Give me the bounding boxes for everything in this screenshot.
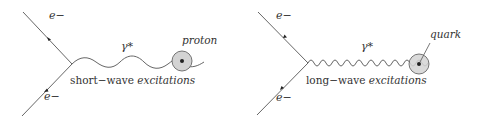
caption-long-wave: long−wave excitations <box>306 74 427 86</box>
electron-label-bottom: e− <box>276 91 292 104</box>
photon-label: γ* <box>361 40 374 53</box>
photon-wave-short <box>72 56 178 68</box>
feynman-diagrams: e− e− γ* proton short−wave excitations e… <box>0 0 483 128</box>
photon-label: γ* <box>121 40 134 53</box>
quark-dot <box>417 62 421 66</box>
caption-short-wave: short−wave excitations <box>70 74 196 86</box>
electron-label-top: e− <box>276 9 292 22</box>
proton-dot <box>180 59 184 63</box>
arrow-icon-top <box>283 35 287 39</box>
target-label-quark: quark <box>430 28 461 40</box>
diagram-short-wave: e− e− γ* proton short−wave excitations <box>22 9 218 116</box>
electron-label-bottom: e− <box>44 90 60 103</box>
electron-label-top: e− <box>49 9 65 22</box>
arrow-icon-top <box>47 37 51 41</box>
electron-line-bottom <box>257 63 308 115</box>
diagram-long-wave: e− e− γ* quark long−wave excitations <box>257 9 461 115</box>
target-label-proton: proton <box>182 34 218 46</box>
